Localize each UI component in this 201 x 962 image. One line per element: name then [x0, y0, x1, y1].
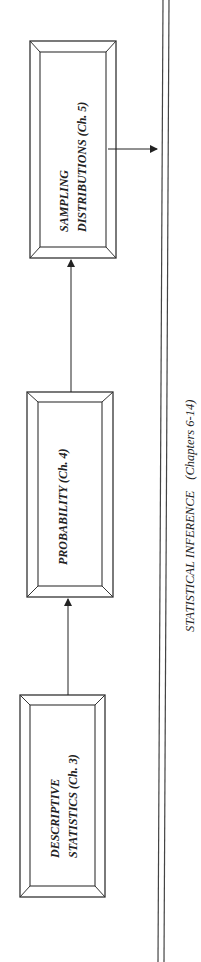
box-sampling-distributions: SAMPLING DISTRIBUTIONS (Ch. 5): [30, 41, 116, 258]
box-probability: PROBABILITY (Ch. 4): [27, 392, 113, 597]
box-sampling-line-2: DISTRIBUTIONS (Ch. 5): [75, 102, 89, 233]
box-descriptive-line-2: STATISTICS (Ch. 3): [66, 754, 80, 858]
box-probability-label: PROBABILITY (Ch. 4): [56, 448, 70, 565]
inference-double-rule: [158, 0, 169, 962]
inference-label-main: STATISTICAL INFERENCE: [183, 491, 197, 632]
box-descriptive-line-1: DESCRIPTIVE: [48, 779, 62, 859]
flow-diagram: DESCRIPTIVE STATISTICS (Ch. 3) PROBABILI…: [0, 0, 201, 962]
inference-label: STATISTICAL INFERENCE (Chapters 6-14): [183, 400, 197, 632]
inference-label-sub: (Chapters 6-14): [183, 400, 197, 480]
box-descriptive-statistics: DESCRIPTIVE STATISTICS (Ch. 3): [20, 695, 105, 897]
box-sampling-line-1: SAMPLING: [57, 170, 71, 232]
